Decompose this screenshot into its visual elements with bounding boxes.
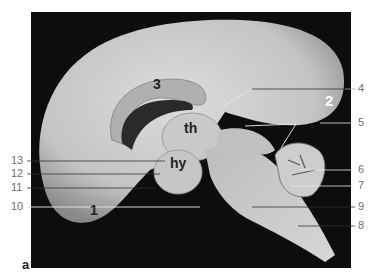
panel-letter: a [22, 257, 29, 272]
callout-label-9: 9 [358, 201, 364, 212]
callout-label-4: 4 [358, 83, 364, 94]
callout-label-12: 12 [11, 168, 23, 179]
callout-label-5: 5 [358, 117, 364, 128]
region-label-2: 2 [325, 93, 333, 108]
callout-label-8: 8 [358, 220, 364, 231]
callout-label-10: 10 [11, 201, 23, 212]
region-label-1: 1 [90, 203, 98, 217]
callout-label-6: 6 [358, 164, 364, 175]
callout-label-13: 13 [11, 155, 23, 166]
brain-illustration [0, 0, 377, 279]
region-label-hy: hy [170, 156, 186, 170]
anatomy-figure: 123thhy 456798 13121110 a [0, 0, 377, 279]
region-label-th: th [184, 121, 197, 135]
region-label-3: 3 [153, 77, 161, 91]
callout-label-11: 11 [11, 182, 22, 193]
callout-label-7: 7 [358, 180, 364, 191]
